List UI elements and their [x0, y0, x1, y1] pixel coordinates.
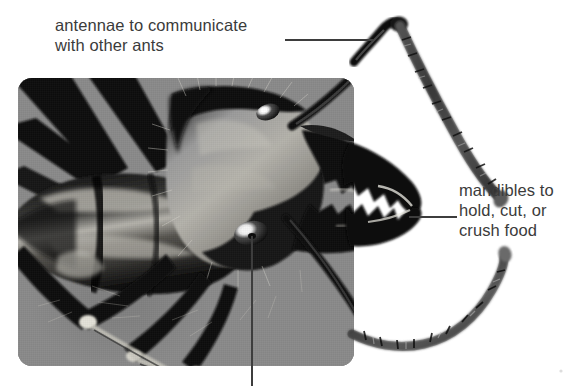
- label-antennae: antennae to communicate with other ants: [55, 15, 247, 55]
- label-mandibles: mandibles to hold, cut, or crush food: [459, 180, 554, 240]
- antennae-leader-line: [285, 39, 373, 41]
- head-leader-line: [251, 236, 253, 386]
- ant-anatomy-figure: antennae to communicate with other ants …: [0, 0, 588, 390]
- mandibles-leader-line: [409, 216, 457, 218]
